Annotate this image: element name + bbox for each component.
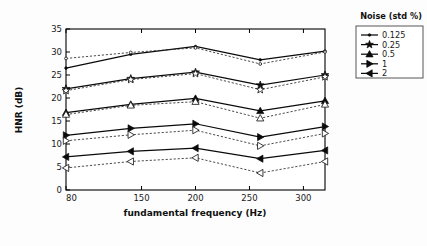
y-tick-label: 20 [51,93,62,103]
y-tick-label: 15 [51,116,62,126]
y-tick-label: 10 [51,139,62,149]
y-tick-label: 25 [51,70,62,80]
dot-marker [259,59,262,62]
legend-label: 0.5 [382,49,395,59]
dot-marker [194,46,197,49]
y-tick-label: 0 [57,185,62,195]
dot-marker [65,67,68,70]
chart-svg: 80150200250300 05101520253035 fundamenta… [0,0,427,246]
y-tick-label: 30 [51,47,62,57]
x-tick-label: 80 [66,193,77,203]
legend-label: 1 [382,59,387,69]
y-tick-label: 35 [51,24,62,34]
legend-label: 0.125 [382,30,405,40]
dot-marker [65,57,68,60]
y-axis-title: HNR (dB) [14,87,24,134]
x-tick-label: 250 [241,193,257,203]
y-tick-label: 5 [57,162,62,172]
x-axis-title: fundamental frequency (Hz) [124,208,267,218]
legend-title: Noise (std %) [360,11,422,21]
plot-area-frame [66,29,325,190]
dot-marker [259,63,262,66]
dot-marker [324,51,327,54]
dot-marker [368,34,371,37]
legend-label: 2 [382,68,387,78]
x-tick-label: 200 [187,193,203,203]
chart-figure: 80150200250300 05101520253035 fundamenta… [0,0,427,246]
x-tick-label: 300 [295,193,311,203]
dot-marker [129,51,132,54]
x-tick-label: 150 [133,193,149,203]
legend-label: 0.25 [382,40,400,50]
